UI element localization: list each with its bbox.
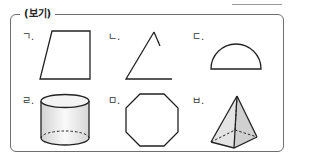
trapezoid-icon [38,30,94,80]
example-badge: (보기) [20,7,55,21]
item-label-3: ㄷ. [192,32,204,42]
answer-blank-line [232,4,282,5]
open-angle-icon [124,30,174,80]
item-label-5: ㅁ. [108,96,120,106]
badge-close: ) [47,8,52,19]
square-pyramid-icon [210,92,264,150]
item-label-2: ㄴ. [108,32,120,42]
cylinder-icon [38,92,92,150]
item-label-1: ㄱ. [22,32,34,42]
semicircle-icon [208,40,264,72]
item-label-4: ㄹ. [22,96,34,106]
badge-text: 보기 [29,8,47,19]
item-label-6: ㅂ. [192,96,204,106]
octagon-icon [124,92,180,148]
